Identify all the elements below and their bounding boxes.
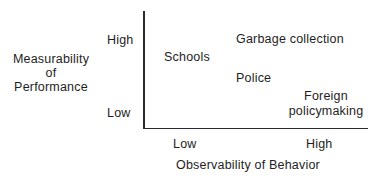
x-axis-high-label: High: [306, 137, 333, 151]
y-axis-title-line-3: Performance: [8, 80, 94, 94]
y-axis-title-line-1: Measurability: [8, 52, 94, 66]
y-axis-title-line-2: of: [8, 66, 94, 80]
y-axis-high-label: High: [107, 33, 134, 47]
y-axis-line: [143, 11, 145, 129]
y-axis-low-label: Low: [107, 106, 131, 120]
item-garbage-collection: Garbage collection: [236, 32, 344, 46]
x-axis-low-label: Low: [173, 137, 197, 151]
item-foreign-policymaking: Foreign policymaking: [280, 89, 372, 119]
item-foreign-policymaking-line-1: Foreign: [280, 89, 372, 104]
y-axis-title: Measurability of Performance: [8, 52, 94, 94]
x-axis-title: Observability of Behavior: [176, 158, 320, 172]
item-police: Police: [236, 71, 271, 85]
item-foreign-policymaking-line-2: policymaking: [280, 104, 372, 119]
item-schools: Schools: [164, 50, 210, 64]
x-axis-line: [143, 128, 368, 130]
